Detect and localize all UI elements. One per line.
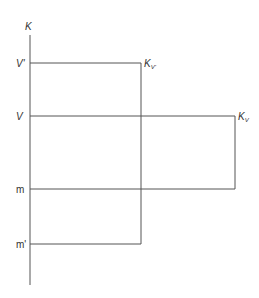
diagram-canvas: K V' V m m' KV' KV: [0, 0, 259, 298]
end-label-k-v: KV: [238, 111, 250, 123]
level-label-v-prime: V': [16, 58, 26, 69]
end-label-k-v-prime: KV': [144, 58, 157, 70]
level-label-v: V: [16, 111, 24, 122]
end-label-k-v-prime-sub: V': [151, 64, 157, 70]
axis-label-k: K: [25, 21, 33, 32]
end-label-k-v-sub: V: [245, 117, 250, 123]
level-label-m: m: [16, 184, 24, 195]
level-label-m-prime: m': [16, 239, 26, 250]
